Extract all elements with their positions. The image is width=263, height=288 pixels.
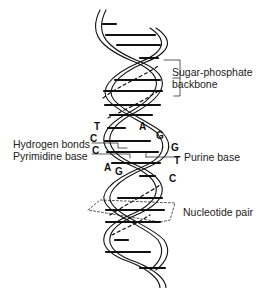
base-left-c2: C	[92, 145, 99, 156]
label-backbone-line2: backbone	[172, 78, 253, 90]
label-sugar-phosphate-backbone: Sugar-phosphate backbone	[172, 66, 253, 90]
base-bottom-g: G	[115, 166, 123, 177]
dna-diagram: Sugar-phosphate backbone Hydrogen bonds …	[0, 0, 263, 288]
base-left-a: A	[104, 162, 111, 173]
base-right-g1: G	[156, 130, 164, 141]
label-hydrogen-bonds: Hydrogen bonds	[13, 138, 90, 150]
label-backbone-line1: Sugar-phosphate	[172, 66, 253, 78]
label-pyrimidine-base: Pyrimidine base	[13, 150, 88, 162]
base-right-c: C	[169, 173, 176, 184]
base-left-t: T	[94, 121, 100, 132]
base-right-g2: G	[171, 142, 179, 153]
backbone-strand-1	[95, 10, 166, 288]
base-right-a: A	[139, 121, 146, 132]
base-left-c1: C	[90, 133, 97, 144]
label-nucleotide-pair: Nucleotide pair	[183, 206, 253, 218]
label-purine-base: Purine base	[184, 151, 240, 163]
base-right-t: T	[174, 155, 180, 166]
